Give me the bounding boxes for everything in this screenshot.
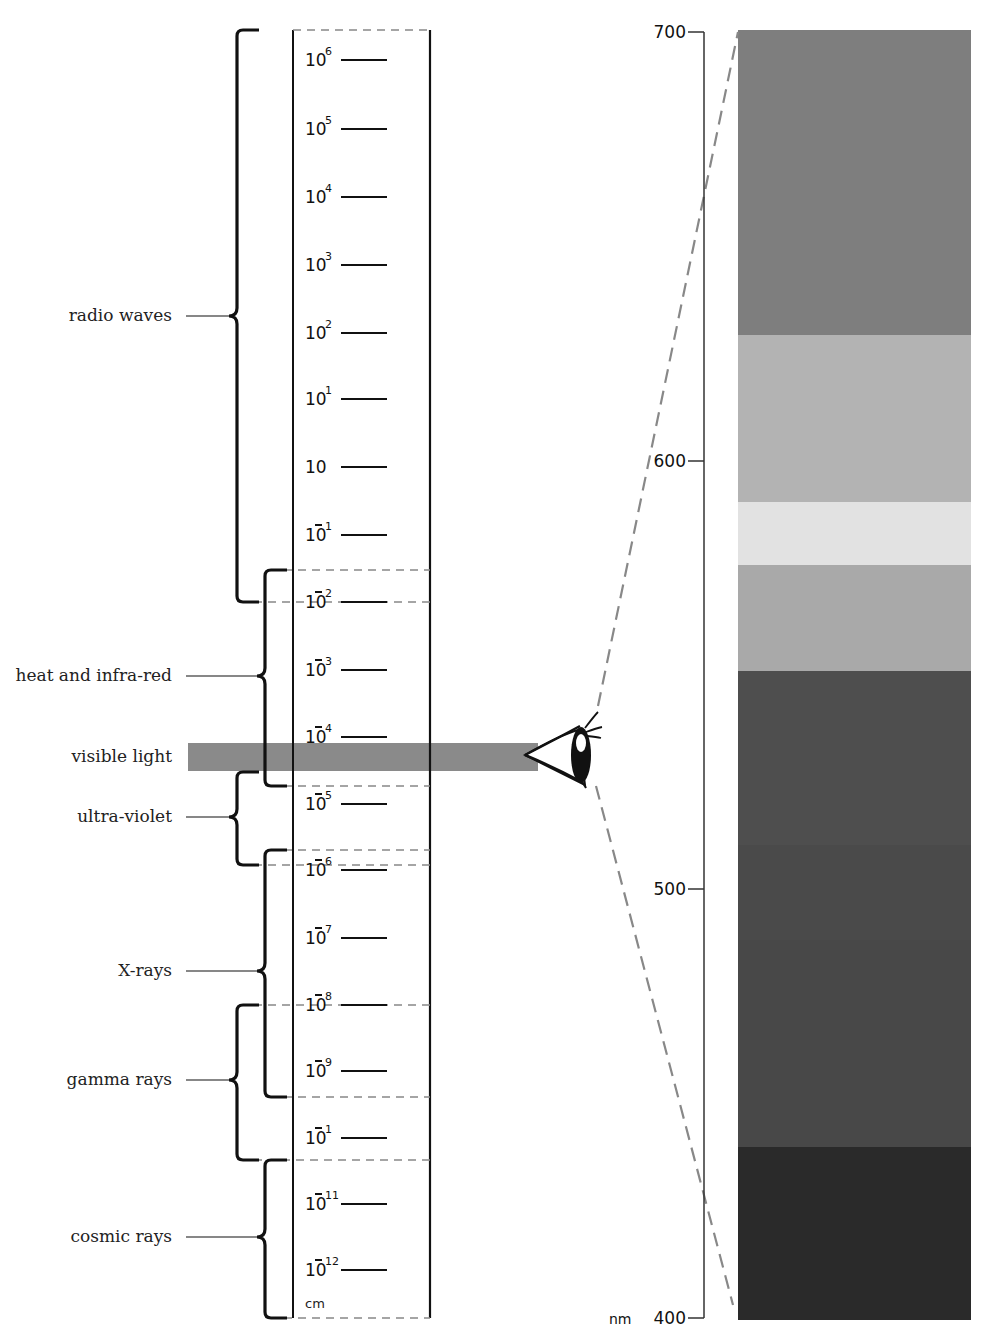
svg-text:10: 10 xyxy=(305,1260,327,1280)
scale-tick: 103 xyxy=(305,655,387,680)
svg-text:10: 10 xyxy=(305,1128,327,1148)
scale-tick: 106 xyxy=(305,855,387,880)
scale-tick: 101 xyxy=(305,520,387,545)
spectrum-band-indigo xyxy=(738,940,971,1147)
svg-text:10: 10 xyxy=(305,1194,327,1214)
visible-light-band xyxy=(188,743,538,771)
svg-text:10: 10 xyxy=(305,119,327,139)
eye-icon xyxy=(525,712,602,788)
zoom-guide-lines xyxy=(596,32,738,1305)
svg-text:10: 10 xyxy=(305,928,327,948)
spectrum-band-green xyxy=(738,565,971,671)
svg-text:10: 10 xyxy=(305,592,327,612)
nm-tick-label: 400 xyxy=(654,1308,686,1328)
spectrum-band-violet xyxy=(738,1147,971,1320)
region-label: gamma rays xyxy=(67,1069,172,1089)
region-braces xyxy=(186,30,287,1318)
scale-tick: 105 xyxy=(305,114,387,139)
svg-text:11: 11 xyxy=(325,1189,339,1202)
scale-tick: 108 xyxy=(305,990,387,1015)
nanometer-axis: 700600500400nm xyxy=(609,22,704,1328)
svg-text:1: 1 xyxy=(325,384,332,397)
svg-text:10: 10 xyxy=(305,457,327,477)
svg-text:4: 4 xyxy=(325,182,332,195)
region-label: ultra-violet xyxy=(77,806,172,826)
svg-text:10: 10 xyxy=(305,860,327,880)
scale-tick: 109 xyxy=(305,1056,387,1081)
svg-text:9: 9 xyxy=(325,1056,332,1069)
scale-unit: cm xyxy=(305,1296,325,1311)
nm-tick-label: 600 xyxy=(654,451,686,471)
region-label: radio waves xyxy=(69,305,172,325)
scale-tick: 101 xyxy=(305,384,387,409)
scale-ticks: 1061051041031021011010110210310410510610… xyxy=(305,45,387,1280)
scale-tick: 104 xyxy=(305,182,387,207)
visible-spectrum-bands xyxy=(738,30,971,1320)
svg-text:6: 6 xyxy=(325,45,332,58)
spectrum-band-blue-green xyxy=(738,671,971,845)
scale-tick: 1011 xyxy=(305,1189,387,1214)
region-labels: radio wavesheat and infra-redvisible lig… xyxy=(15,305,172,1246)
svg-text:5: 5 xyxy=(325,789,332,802)
scale-tick: 107 xyxy=(305,923,387,948)
svg-text:8: 8 xyxy=(325,990,332,1003)
svg-text:4: 4 xyxy=(325,722,332,735)
scale-tick: 101 xyxy=(305,1123,387,1148)
svg-text:6: 6 xyxy=(325,855,332,868)
svg-text:10: 10 xyxy=(305,50,327,70)
svg-text:1: 1 xyxy=(325,1123,332,1136)
svg-text:10: 10 xyxy=(305,187,327,207)
region-label: X-rays xyxy=(118,960,172,980)
region-label: visible light xyxy=(70,746,172,766)
svg-text:10: 10 xyxy=(305,323,327,343)
spectrum-band-yellow xyxy=(738,502,971,565)
scale-tick: 102 xyxy=(305,318,387,343)
scale-tick: 103 xyxy=(305,250,387,275)
spectrum-diagram: 1061051041031021011010110210310410510610… xyxy=(0,0,991,1335)
svg-text:3: 3 xyxy=(325,250,332,263)
nm-unit: nm xyxy=(609,1311,632,1327)
spectrum-band-orange xyxy=(738,335,971,502)
nm-tick-label: 700 xyxy=(654,22,686,42)
region-label: cosmic rays xyxy=(70,1226,172,1246)
svg-text:10: 10 xyxy=(305,525,327,545)
region-label: heat and infra-red xyxy=(15,665,172,685)
svg-text:2: 2 xyxy=(325,318,332,331)
svg-text:12: 12 xyxy=(325,1255,339,1268)
svg-text:5: 5 xyxy=(325,114,332,127)
svg-text:2: 2 xyxy=(325,587,332,600)
svg-text:7: 7 xyxy=(325,923,332,936)
svg-text:10: 10 xyxy=(305,660,327,680)
svg-text:10: 10 xyxy=(305,794,327,814)
spectrum-band-red xyxy=(738,30,971,335)
scale-tick: 1012 xyxy=(305,1255,387,1280)
svg-text:10: 10 xyxy=(305,1061,327,1081)
svg-text:3: 3 xyxy=(325,655,332,668)
svg-text:10: 10 xyxy=(305,995,327,1015)
scale-tick: 102 xyxy=(305,587,387,612)
svg-text:10: 10 xyxy=(305,255,327,275)
svg-text:1: 1 xyxy=(325,520,332,533)
scale-tick: 106 xyxy=(305,45,387,70)
wavelength-scale-column xyxy=(240,30,430,1318)
scale-tick: 10 xyxy=(305,457,387,477)
scale-tick: 105 xyxy=(305,789,387,814)
svg-text:10: 10 xyxy=(305,389,327,409)
spectrum-band-blue xyxy=(738,845,971,940)
nm-tick-label: 500 xyxy=(654,879,686,899)
